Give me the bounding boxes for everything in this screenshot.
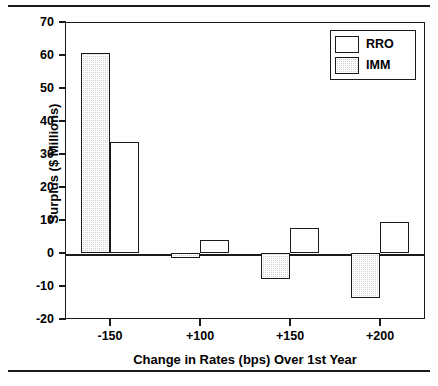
top-page-rule [8, 5, 430, 7]
bar-imm-+200 [351, 253, 380, 298]
x-tick-label: +100 [165, 330, 235, 343]
chart-legend: RRO IMM [330, 30, 416, 80]
bar-imm-+100 [171, 253, 200, 258]
bar-rro--150 [110, 142, 139, 253]
x-tick-label: -150 [75, 330, 145, 343]
bar-rro-+100 [200, 240, 229, 253]
legend-item-rro: RRO [335, 34, 411, 55]
y-tick-mark [59, 285, 66, 287]
bar-rro-+200 [380, 222, 409, 253]
figure: 706050403020100-10-20 -150+100+150+200 R… [0, 0, 438, 386]
x-tick-mark [289, 319, 291, 326]
y-tick-mark [59, 21, 66, 23]
x-tick-mark [379, 319, 381, 326]
bar-rro-+150 [290, 228, 319, 253]
y-axis-title: Surplus ($ Millions) [46, 44, 61, 284]
legend-label-rro: RRO [366, 38, 394, 51]
legend-swatch-imm [335, 57, 359, 74]
x-axis-title: Change in Rates (bps) Over 1st Year [65, 352, 425, 367]
legend-swatch-rro [335, 36, 359, 53]
y-tick-label: -20 [14, 313, 54, 326]
bar-imm--150 [81, 53, 110, 253]
bottom-page-rule [8, 370, 430, 372]
x-tick-label: +200 [345, 330, 415, 343]
legend-label-imm: IMM [366, 59, 390, 72]
x-tick-mark [199, 319, 201, 326]
legend-item-imm: IMM [335, 55, 411, 76]
bar-imm-+150 [261, 253, 290, 279]
x-tick-mark [109, 319, 111, 326]
y-tick-mark [59, 318, 66, 320]
y-tick-label: 70 [14, 16, 54, 29]
x-tick-label: +150 [255, 330, 325, 343]
